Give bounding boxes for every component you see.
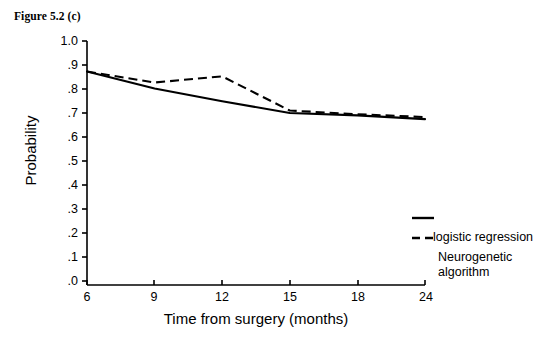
figure-container: Figure 5.2 (c) Probability Time from sur…	[0, 0, 557, 345]
plot-area	[0, 0, 557, 345]
legend-label-neurogenetic-algorithm-line1: Neurogenetic	[438, 250, 512, 264]
series-line-logistic-regression	[87, 72, 425, 120]
series-line-neurogenetic-algorithm	[87, 72, 425, 118]
legend-label-logistic-regression: logistic regression	[433, 230, 533, 244]
legend-label-neurogenetic-algorithm-line2: algorithm	[438, 265, 489, 279]
